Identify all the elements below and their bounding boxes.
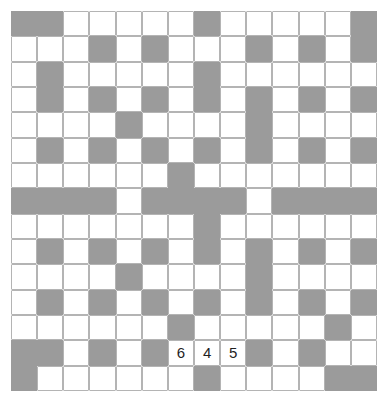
open-cell[interactable] xyxy=(272,11,298,36)
open-cell[interactable] xyxy=(220,264,246,289)
open-cell[interactable] xyxy=(11,138,37,163)
open-cell[interactable] xyxy=(11,214,37,239)
open-cell[interactable] xyxy=(63,340,89,365)
open-cell[interactable] xyxy=(63,138,89,163)
open-cell[interactable] xyxy=(272,87,298,112)
numbered-cell[interactable]: 4 xyxy=(194,340,220,365)
open-cell[interactable] xyxy=(220,290,246,315)
open-cell[interactable] xyxy=(142,264,168,289)
open-cell[interactable] xyxy=(116,163,142,188)
open-cell[interactable] xyxy=(89,315,115,340)
open-cell[interactable] xyxy=(116,11,142,36)
open-cell[interactable] xyxy=(11,112,37,137)
open-cell[interactable] xyxy=(89,11,115,36)
open-cell[interactable] xyxy=(168,11,194,36)
open-cell[interactable] xyxy=(351,163,377,188)
open-cell[interactable] xyxy=(89,264,115,289)
open-cell[interactable] xyxy=(272,36,298,61)
open-cell[interactable] xyxy=(37,214,63,239)
open-cell[interactable] xyxy=(272,366,298,391)
open-cell[interactable] xyxy=(272,214,298,239)
open-cell[interactable] xyxy=(299,214,325,239)
open-cell[interactable] xyxy=(89,112,115,137)
open-cell[interactable] xyxy=(63,366,89,391)
open-cell[interactable] xyxy=(299,112,325,137)
open-cell[interactable] xyxy=(11,62,37,87)
open-cell[interactable] xyxy=(325,214,351,239)
open-cell[interactable] xyxy=(194,264,220,289)
open-cell[interactable] xyxy=(272,264,298,289)
open-cell[interactable] xyxy=(63,290,89,315)
open-cell[interactable] xyxy=(142,112,168,137)
open-cell[interactable] xyxy=(299,264,325,289)
open-cell[interactable] xyxy=(168,62,194,87)
open-cell[interactable] xyxy=(272,239,298,264)
open-cell[interactable] xyxy=(37,163,63,188)
open-cell[interactable] xyxy=(142,163,168,188)
open-cell[interactable] xyxy=(168,264,194,289)
open-cell[interactable] xyxy=(351,62,377,87)
open-cell[interactable] xyxy=(116,340,142,365)
open-cell[interactable] xyxy=(168,112,194,137)
open-cell[interactable] xyxy=(116,188,142,213)
open-cell[interactable] xyxy=(246,11,272,36)
open-cell[interactable] xyxy=(351,214,377,239)
open-cell[interactable] xyxy=(325,138,351,163)
numbered-cell[interactable]: 6 xyxy=(168,340,194,365)
open-cell[interactable] xyxy=(89,214,115,239)
open-cell[interactable] xyxy=(63,214,89,239)
open-cell[interactable] xyxy=(37,112,63,137)
open-cell[interactable] xyxy=(11,315,37,340)
open-cell[interactable] xyxy=(194,163,220,188)
open-cell[interactable] xyxy=(325,163,351,188)
open-cell[interactable] xyxy=(116,239,142,264)
open-cell[interactable] xyxy=(11,163,37,188)
open-cell[interactable] xyxy=(325,290,351,315)
open-cell[interactable] xyxy=(299,366,325,391)
open-cell[interactable] xyxy=(246,62,272,87)
open-cell[interactable] xyxy=(220,87,246,112)
open-cell[interactable] xyxy=(63,62,89,87)
open-cell[interactable] xyxy=(63,36,89,61)
open-cell[interactable] xyxy=(142,214,168,239)
open-cell[interactable] xyxy=(37,264,63,289)
open-cell[interactable] xyxy=(142,62,168,87)
open-cell[interactable] xyxy=(220,112,246,137)
open-cell[interactable] xyxy=(272,138,298,163)
open-cell[interactable] xyxy=(299,62,325,87)
open-cell[interactable] xyxy=(272,163,298,188)
open-cell[interactable] xyxy=(116,366,142,391)
open-cell[interactable] xyxy=(89,366,115,391)
open-cell[interactable] xyxy=(325,87,351,112)
open-cell[interactable] xyxy=(63,239,89,264)
open-cell[interactable] xyxy=(220,214,246,239)
open-cell[interactable] xyxy=(299,315,325,340)
open-cell[interactable] xyxy=(168,290,194,315)
open-cell[interactable] xyxy=(246,214,272,239)
open-cell[interactable] xyxy=(116,36,142,61)
open-cell[interactable] xyxy=(168,366,194,391)
open-cell[interactable] xyxy=(37,315,63,340)
open-cell[interactable] xyxy=(325,239,351,264)
open-cell[interactable] xyxy=(63,87,89,112)
open-cell[interactable] xyxy=(220,239,246,264)
open-cell[interactable] xyxy=(299,163,325,188)
open-cell[interactable] xyxy=(325,11,351,36)
open-cell[interactable] xyxy=(89,163,115,188)
open-cell[interactable] xyxy=(37,366,63,391)
crossword-grid[interactable]: 645 xyxy=(11,11,377,391)
open-cell[interactable] xyxy=(220,62,246,87)
open-cell[interactable] xyxy=(63,11,89,36)
open-cell[interactable] xyxy=(325,62,351,87)
open-cell[interactable] xyxy=(325,264,351,289)
open-cell[interactable] xyxy=(325,112,351,137)
open-cell[interactable] xyxy=(272,340,298,365)
open-cell[interactable] xyxy=(351,264,377,289)
open-cell[interactable] xyxy=(194,112,220,137)
open-cell[interactable] xyxy=(194,315,220,340)
open-cell[interactable] xyxy=(116,87,142,112)
open-cell[interactable] xyxy=(220,366,246,391)
open-cell[interactable] xyxy=(299,11,325,36)
open-cell[interactable] xyxy=(220,138,246,163)
open-cell[interactable] xyxy=(272,315,298,340)
